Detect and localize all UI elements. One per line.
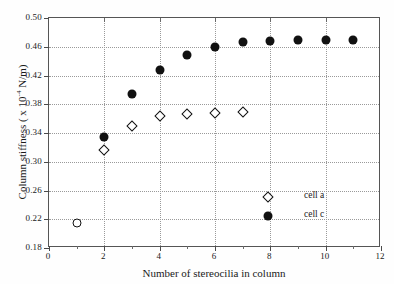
x-axis-title: Number of stereocilia in column [48,267,380,279]
x-tick-label: 0 [46,251,51,261]
y-tick-mark [44,191,49,192]
x-tick-mark-minor [77,246,78,249]
x-tick-label: 10 [320,251,329,261]
x-tick-label: 12 [376,251,385,261]
x-tick-mark-minor [187,246,188,249]
horizontal-gridline [49,76,379,77]
data-point [238,38,247,47]
horizontal-gridline [49,133,379,134]
y-tick-mark [44,133,49,134]
data-point [321,35,330,44]
x-tick-mark-minor [132,246,133,249]
x-tick-mark-top [326,18,327,22]
legend-item: cell c [258,207,358,226]
x-tick-mark-top [160,18,161,22]
x-tick-label: 6 [212,251,217,261]
data-point [266,37,275,46]
data-point [294,35,303,44]
horizontal-gridline [49,162,379,163]
x-tick-mark-minor [298,246,299,249]
data-point [349,35,358,44]
x-tick-mark-minor [243,246,244,249]
x-tick-mark-top [270,18,271,22]
data-point [237,106,248,117]
legend-marker-icon [264,212,273,221]
data-point [128,90,137,99]
data-point [154,111,165,122]
data-point [183,51,192,60]
y-tick-mark [44,162,49,163]
vertical-gridline [160,18,161,246]
legend-label: cell c [304,209,324,219]
y-tick-mark [44,47,49,48]
y-tick-mark [44,18,49,19]
data-point [100,133,109,142]
horizontal-gridline [49,104,379,105]
data-point [126,120,137,131]
data-point [211,42,220,51]
data-point [182,108,193,119]
scatter-chart-figure: 0.180.220.260.300.340.380.420.460.50 024… [0,0,394,284]
x-tick-mark-top [215,18,216,22]
y-axis-title-suffix: N/m) [16,65,28,91]
data-point [72,218,81,227]
x-tick-mark-minor [353,246,354,249]
x-tick-mark-top [104,18,105,22]
legend-label: cell a [304,190,324,200]
data-point [209,107,220,118]
legend-marker-icon [262,191,273,202]
x-tick-label: 4 [156,251,161,261]
y-tick-mark [44,76,49,77]
y-axis-title-exponent: -4 [15,91,23,97]
y-axis-title-main: Column stiffness ( x 10 [16,96,28,199]
y-tick-mark [44,219,49,220]
data-point [99,144,110,155]
y-axis-title: Column stiffness ( x 10-4 N/m) [14,17,30,247]
x-tick-label: 8 [267,251,272,261]
data-point [155,65,164,74]
y-tick-mark [44,104,49,105]
x-tick-label: 2 [101,251,106,261]
legend-item: cell a [258,188,358,207]
vertical-gridline [215,18,216,246]
legend: cell acell c [258,188,358,226]
